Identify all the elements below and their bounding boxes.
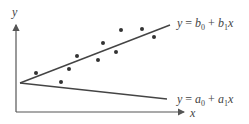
data-point	[67, 67, 71, 71]
eq-plus: +	[208, 92, 215, 106]
eq-lhs: y	[177, 16, 182, 30]
data-point	[119, 28, 123, 32]
data-point	[140, 27, 144, 31]
eq-var: x	[228, 92, 233, 106]
eq-var: x	[228, 16, 233, 30]
eq-equals: =	[185, 16, 192, 30]
eq-coef-0-sub: 0	[201, 23, 205, 32]
data-point	[96, 58, 100, 62]
upper-fit-line	[20, 25, 170, 83]
data-point	[75, 54, 79, 58]
lower-line-equation: y = a0 + a1x	[177, 93, 233, 110]
upper-line-equation: y = b0 + b1x	[177, 17, 233, 34]
data-point	[34, 71, 38, 75]
data-point	[59, 80, 63, 84]
scatter-points	[34, 27, 156, 84]
eq-lhs: y	[177, 92, 182, 106]
lower-fit-line	[20, 83, 167, 99]
data-point	[152, 35, 156, 39]
data-point	[101, 41, 105, 45]
eq-equals: =	[185, 92, 192, 106]
eq-plus: +	[208, 16, 215, 30]
y-axis-label: y	[12, 6, 17, 18]
regression-figure: y x y = b0 + b1x y = a0 + a1x	[0, 0, 249, 124]
data-point	[114, 50, 118, 54]
eq-coef-0-sub: 0	[201, 99, 205, 108]
